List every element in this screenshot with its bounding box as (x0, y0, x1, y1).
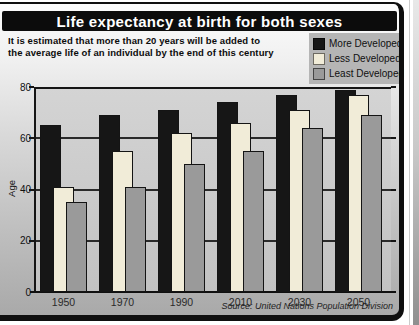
y-tick-label-0: 0 (6, 286, 31, 299)
page-edge-strip (413, 0, 419, 325)
bar-group-1970: 1970 (99, 87, 146, 292)
y-tick-right-60 (391, 137, 396, 139)
legend-item-less-developed: Less Developed (313, 51, 395, 66)
x-tick-label-1970: 1970 (93, 296, 152, 308)
y-axis-line (34, 87, 36, 293)
chart-figure: Life expectancy at birth for both sexes … (0, 2, 404, 321)
y-tick-label-40: 40 (6, 183, 31, 196)
bar-least-developed-2050 (361, 115, 382, 292)
bar-group-1950: 1950 (40, 87, 87, 292)
y-tick-label-60: 60 (6, 132, 31, 145)
bar-group-2030: 2030 (276, 87, 323, 292)
figure-content: Life expectancy at birth for both sexes … (0, 4, 399, 315)
y-tick-left-80 (29, 86, 34, 88)
y-tick-label-20: 20 (6, 234, 31, 247)
bar-least-developed-1990 (184, 164, 205, 292)
bar-least-developed-1970 (125, 187, 146, 292)
legend-label: Less Developed (329, 53, 401, 64)
bar-least-developed-2010 (243, 151, 264, 292)
legend-label: More Developed (329, 38, 402, 49)
source-credit: Source: United Nations Population Divisi… (221, 301, 393, 311)
legend-swatch-more-developed (313, 38, 325, 50)
legend: More DevelopedLess DevelopedLeast Develo… (309, 33, 399, 84)
legend-label: Least Developed (329, 68, 404, 79)
bar-group-2050: 2050 (335, 87, 382, 292)
chart-subtitle: It is estimated that more than 20 years … (8, 35, 274, 59)
y-tick-right-20 (391, 240, 396, 242)
subtitle-line-2: the average life of an individual by the… (8, 47, 274, 59)
y-tick-label-80: 80 (6, 81, 31, 94)
bar-group-2010: 2010 (217, 87, 264, 292)
y-tick-right-40 (391, 189, 396, 191)
bar-least-developed-2030 (302, 128, 323, 292)
chart-title: Life expectancy at birth for both sexes (57, 13, 343, 30)
bar-groups: 195019701990201020302050 (35, 87, 391, 292)
subtitle-line-1: It is estimated that more than 20 years … (8, 35, 274, 47)
legend-swatch-less-developed (313, 53, 325, 65)
legend-swatch-least-developed (313, 68, 325, 80)
y-tick-right-80 (391, 86, 396, 88)
x-tick-label-1950: 1950 (34, 296, 93, 308)
y-tick-left-40 (29, 189, 34, 191)
page: { "figure": { "title": "Life expectancy … (0, 0, 419, 325)
y-tick-left-20 (29, 240, 34, 242)
title-bar: Life expectancy at birth for both sexes (2, 11, 397, 31)
bar-least-developed-1950 (66, 202, 87, 292)
page-edge-line (409, 0, 410, 325)
legend-item-more-developed: More Developed (313, 36, 395, 51)
x-tick-label-1990: 1990 (152, 296, 211, 308)
plot-area: 195019701990201020302050 (35, 87, 391, 292)
legend-item-least-developed: Least Developed (313, 66, 395, 81)
bar-group-1990: 1990 (158, 87, 205, 292)
y-tick-left-60 (29, 137, 34, 139)
